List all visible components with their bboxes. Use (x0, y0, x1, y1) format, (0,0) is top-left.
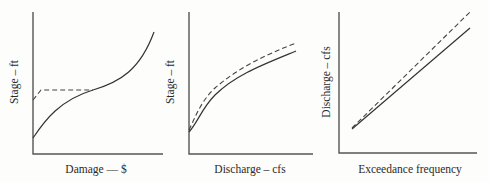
chart2-axes (189, 12, 313, 154)
chart-discharge-frequency (339, 12, 477, 153)
chart1-dashed-curve (33, 90, 93, 100)
chart-stage-discharge (189, 12, 313, 154)
chart3-axes (339, 12, 477, 153)
charts-canvas (0, 0, 489, 182)
chart2-x-axis-label: Discharge – cfs (214, 163, 285, 175)
chart-stage-damage (33, 12, 163, 154)
chart3-solid-line (352, 28, 470, 129)
chart3-y-axis-label: Discharge – cfs (320, 46, 332, 117)
chart2-dashed-curve (189, 43, 296, 130)
chart3-x-axis-label: Exceedance frequency (358, 163, 462, 175)
chart1-y-axis-label: Stage – ft (8, 60, 20, 104)
chart1-x-axis-label: Damage — $ (65, 163, 126, 175)
chart2-solid-curve (189, 51, 296, 132)
chart1-solid-curve (33, 32, 154, 138)
chart2-y-axis-label: Stage – ft (164, 60, 176, 104)
chart1-axes (33, 12, 163, 154)
chart3-dashed-line (352, 12, 470, 128)
